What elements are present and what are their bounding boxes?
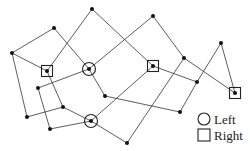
- edge-J-Q: [180, 82, 197, 112]
- edge-H-S: [127, 58, 184, 143]
- node-F: [87, 67, 91, 71]
- edge-O-N: [27, 107, 63, 117]
- legend-label-right: Right: [214, 128, 243, 143]
- legend-label-left: Left: [214, 112, 236, 127]
- edge-F-M: [89, 69, 105, 96]
- markers-layer: [42, 61, 241, 128]
- node-O: [25, 115, 29, 119]
- graph-diagram: Left Right: [0, 0, 250, 151]
- node-P: [89, 119, 93, 123]
- edge-I-K: [221, 43, 235, 93]
- node-H: [182, 56, 186, 60]
- node-A: [90, 7, 94, 11]
- node-I: [219, 41, 223, 45]
- legend-square-icon: [198, 129, 210, 141]
- node-B: [151, 14, 155, 18]
- edge-H-K: [184, 58, 235, 93]
- node-M: [103, 94, 107, 98]
- edge-I-J: [197, 43, 221, 82]
- legend-item-left: Left: [198, 112, 236, 127]
- node-R: [48, 127, 52, 131]
- legend-item-right: Right: [198, 128, 243, 143]
- edge-L-R: [38, 88, 50, 129]
- edge-G-J: [153, 66, 197, 82]
- node-N: [61, 105, 65, 109]
- edge-C-F: [54, 28, 89, 69]
- edge-A-G: [92, 9, 153, 66]
- legend: Left Right: [198, 112, 243, 143]
- node-C: [52, 26, 56, 30]
- edge-P-G: [91, 66, 153, 121]
- node-G: [151, 64, 155, 68]
- node-J: [195, 80, 199, 84]
- node-Q: [178, 110, 182, 114]
- edge-D-O: [12, 53, 27, 117]
- edge-N-P: [63, 107, 91, 121]
- edge-F-B: [89, 16, 153, 69]
- edge-D-C: [12, 28, 54, 53]
- edge-M-Q: [105, 96, 180, 112]
- edge-B-H: [153, 16, 184, 58]
- legend-circle-icon: [198, 113, 210, 125]
- node-E: [45, 69, 49, 73]
- node-L: [36, 86, 40, 90]
- node-K: [233, 91, 237, 95]
- node-D: [10, 51, 14, 55]
- node-S: [125, 141, 129, 145]
- edge-E-A: [47, 9, 92, 71]
